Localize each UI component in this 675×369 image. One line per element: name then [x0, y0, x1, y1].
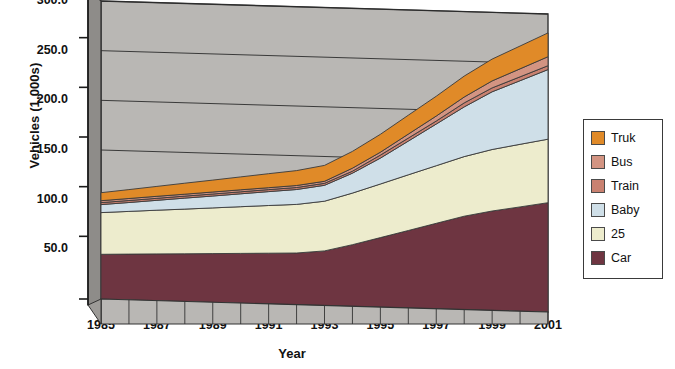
legend-item-car[interactable]: Car	[591, 246, 657, 270]
legend-label: Baby	[611, 204, 640, 217]
plot-area	[0, 0, 675, 369]
legend-label: 25	[611, 228, 625, 241]
legend-item-truk[interactable]: Truk	[591, 126, 657, 150]
legend-item-25[interactable]: 25	[591, 222, 657, 246]
legend-label: Car	[611, 252, 631, 265]
legend-swatch-icon	[591, 155, 605, 169]
legend-label: Truk	[611, 132, 636, 145]
legend-swatch-icon	[591, 251, 605, 265]
legend-swatch-icon	[591, 203, 605, 217]
legend-swatch-icon	[591, 227, 605, 241]
legend-swatch-icon	[591, 179, 605, 193]
chart-legend: TrukBusTrainBaby25Car	[583, 119, 663, 279]
legend-item-baby[interactable]: Baby	[591, 198, 657, 222]
stacked-area-chart: Vehicles (1,000s) Year 50.0100.0150.0200…	[0, 0, 675, 369]
legend-label: Train	[611, 180, 639, 193]
legend-label: Bus	[611, 156, 633, 169]
legend-swatch-icon	[591, 131, 605, 145]
legend-item-train[interactable]: Train	[591, 174, 657, 198]
legend-item-bus[interactable]: Bus	[591, 150, 657, 174]
